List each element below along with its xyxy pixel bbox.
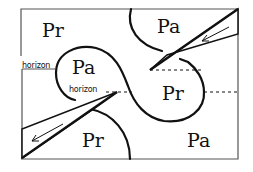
- horizon-label-outer: horizon: [22, 61, 50, 70]
- region-label-center-left: Pa: [72, 56, 95, 78]
- region-label-top-left: Pr: [42, 19, 65, 41]
- region-label-top-right: Pa: [157, 15, 180, 37]
- region-label-bottom-left: Pr: [82, 129, 105, 151]
- phase-diagram: Pr Pa Pa Pr Pr Pa horizon horizon: [0, 0, 253, 172]
- region-label-bottom-right: Pa: [187, 129, 210, 151]
- horizon-label-inner: horizon: [69, 85, 97, 94]
- region-label-center-right: Pr: [162, 82, 185, 104]
